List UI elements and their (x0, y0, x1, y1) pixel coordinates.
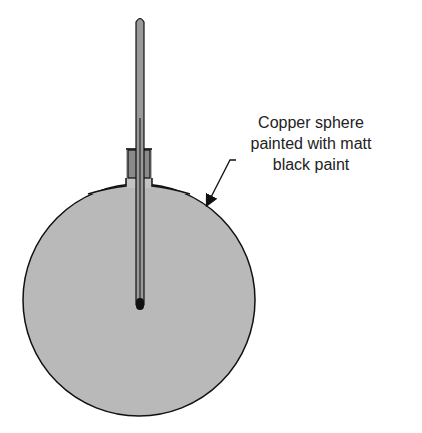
pointer-arrow (207, 160, 236, 205)
label-line-2: painted with matt (236, 133, 386, 154)
label-line-3: black paint (236, 154, 386, 175)
thermometer-bulb (136, 298, 144, 310)
thermometer (136, 19, 144, 306)
diagram-canvas (0, 0, 422, 433)
label-line-1: Copper sphere (236, 112, 386, 133)
sphere-label: Copper sphere painted with matt black pa… (236, 112, 386, 175)
